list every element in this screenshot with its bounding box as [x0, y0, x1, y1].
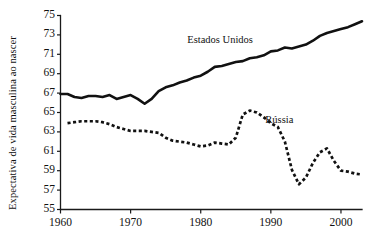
- y-tick-label: 55: [25, 202, 55, 214]
- y-tick-label: 59: [25, 163, 55, 175]
- x-tick-label: 2000: [319, 216, 363, 228]
- y-tick-label: 69: [25, 66, 55, 78]
- data-series-group: [61, 21, 363, 184]
- y-tick-label: 67: [25, 86, 55, 98]
- y-tick-label: 65: [25, 105, 55, 117]
- chart-figure: Expectativa de vida masculina ao nascer …: [0, 0, 381, 246]
- y-tick-label: 71: [25, 47, 55, 59]
- x-tick-label: 1980: [179, 216, 223, 228]
- x-tick-label: 1990: [249, 216, 293, 228]
- series-line-russia: [68, 111, 362, 185]
- series-label-russia: Rússia: [265, 114, 293, 125]
- y-tick-label: 73: [25, 27, 55, 39]
- y-tick-label: 61: [25, 144, 55, 156]
- y-tick-label: 75: [25, 8, 55, 20]
- x-tick-label: 1970: [109, 216, 153, 228]
- axes-group: [57, 16, 362, 214]
- x-tick-label: 1960: [39, 216, 83, 228]
- series-label-estados-unidos: Estados Unidos: [187, 34, 253, 45]
- y-tick-label: 63: [25, 124, 55, 136]
- y-tick-label: 57: [25, 183, 55, 195]
